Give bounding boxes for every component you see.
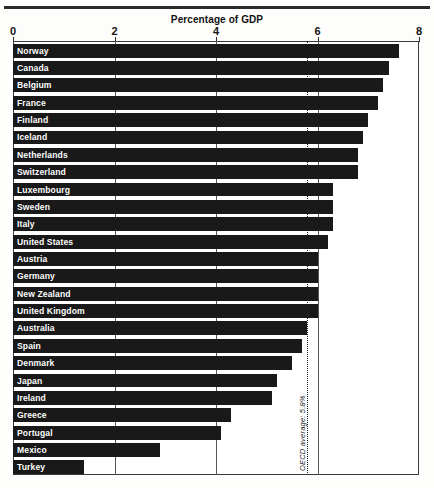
bar-label-netherlands: Netherlands bbox=[17, 150, 68, 160]
bar-label-germany: Germany bbox=[17, 271, 55, 281]
bar-france[interactable] bbox=[13, 96, 378, 110]
bar-row[interactable]: Turkey bbox=[13, 460, 419, 474]
bar-row[interactable]: Austria bbox=[13, 252, 419, 266]
chart-page: Percentage of GDP 02468 NorwayCanadaBelg… bbox=[0, 0, 434, 488]
bar-label-turkey: Turkey bbox=[17, 462, 45, 472]
bar-row[interactable]: Iceland bbox=[13, 131, 419, 145]
bar-row[interactable]: Italy bbox=[13, 217, 419, 231]
bar-row[interactable]: Ireland bbox=[13, 391, 419, 405]
bar-row[interactable]: Denmark bbox=[13, 356, 419, 370]
bar-finland[interactable] bbox=[13, 113, 368, 127]
top-rule-divider bbox=[4, 6, 430, 9]
bar-japan[interactable] bbox=[13, 374, 277, 388]
bar-belgium[interactable] bbox=[13, 78, 383, 92]
bar-row[interactable]: Germany bbox=[13, 269, 419, 283]
bar-label-luxembourg: Luxembourg bbox=[17, 185, 70, 195]
bar-row[interactable]: Mexico bbox=[13, 443, 419, 457]
bar-spain[interactable] bbox=[13, 339, 302, 353]
bar-label-austria: Austria bbox=[17, 254, 47, 264]
bar-label-japan: Japan bbox=[17, 376, 42, 386]
chart-title: Percentage of GDP bbox=[0, 14, 434, 25]
bar-row[interactable]: Australia bbox=[13, 321, 419, 335]
bar-row[interactable]: Switzerland bbox=[13, 165, 419, 179]
bar-row[interactable]: Japan bbox=[13, 374, 419, 388]
bar-row[interactable]: Finland bbox=[13, 113, 419, 127]
bar-sweden[interactable] bbox=[13, 200, 333, 214]
bar-label-belgium: Belgium bbox=[17, 80, 52, 90]
bar-row[interactable]: Belgium bbox=[13, 78, 419, 92]
bar-germany[interactable] bbox=[13, 269, 318, 283]
bar-canada[interactable] bbox=[13, 61, 389, 75]
bar-label-switzerland: Switzerland bbox=[17, 167, 66, 177]
plot-area: NorwayCanadaBelgiumFranceFinlandIcelandN… bbox=[13, 41, 419, 475]
bar-row[interactable]: New Zealand bbox=[13, 287, 419, 301]
bar-australia[interactable] bbox=[13, 321, 307, 335]
bar-label-portugal: Portugal bbox=[17, 428, 53, 438]
x-tick-label-4: 4 bbox=[213, 25, 219, 37]
oecd-average-line bbox=[307, 41, 308, 475]
bar-label-spain: Spain bbox=[17, 341, 41, 351]
x-tick-label-8: 8 bbox=[416, 25, 422, 37]
bar-row[interactable]: Netherlands bbox=[13, 148, 419, 162]
bar-label-new-zealand: New Zealand bbox=[17, 289, 71, 299]
bar-row[interactable]: United States bbox=[13, 235, 419, 249]
bar-label-australia: Australia bbox=[17, 323, 55, 333]
bar-label-italy: Italy bbox=[17, 219, 35, 229]
x-tick-label-0: 0 bbox=[10, 25, 16, 37]
bar-label-canada: Canada bbox=[17, 63, 49, 73]
bar-ireland[interactable] bbox=[13, 391, 272, 405]
x-tick-label-2: 2 bbox=[111, 25, 117, 37]
bar-iceland[interactable] bbox=[13, 131, 363, 145]
bar-row[interactable]: United Kingdom bbox=[13, 304, 419, 318]
bar-italy[interactable] bbox=[13, 217, 333, 231]
bar-label-iceland: Iceland bbox=[17, 132, 47, 142]
bar-row[interactable]: France bbox=[13, 96, 419, 110]
bar-norway[interactable] bbox=[13, 44, 399, 58]
bar-label-united-kingdom: United Kingdom bbox=[17, 306, 85, 316]
bar-austria[interactable] bbox=[13, 252, 318, 266]
bar-row[interactable]: Spain bbox=[13, 339, 419, 353]
oecd-average-label: OECD average: 5.8% bbox=[298, 395, 307, 471]
bar-label-mexico: Mexico bbox=[17, 445, 47, 455]
bar-label-denmark: Denmark bbox=[17, 358, 54, 368]
bar-row[interactable]: Sweden bbox=[13, 200, 419, 214]
bar-label-greece: Greece bbox=[17, 410, 47, 420]
bar-row[interactable]: Portugal bbox=[13, 426, 419, 440]
bar-denmark[interactable] bbox=[13, 356, 292, 370]
bar-label-france: France bbox=[17, 98, 46, 108]
bar-row[interactable]: Greece bbox=[13, 408, 419, 422]
bar-label-sweden: Sweden bbox=[17, 202, 50, 212]
bar-row[interactable]: Luxembourg bbox=[13, 183, 419, 197]
bar-row[interactable]: Norway bbox=[13, 44, 419, 58]
x-tick-label-6: 6 bbox=[314, 25, 320, 37]
bar-label-finland: Finland bbox=[17, 115, 48, 125]
x-tick-mark-8 bbox=[419, 37, 420, 42]
bar-label-norway: Norway bbox=[17, 46, 49, 56]
bar-label-ireland: Ireland bbox=[17, 393, 46, 403]
bar-row[interactable]: Canada bbox=[13, 61, 419, 75]
bar-label-united-states: United States bbox=[17, 237, 73, 247]
